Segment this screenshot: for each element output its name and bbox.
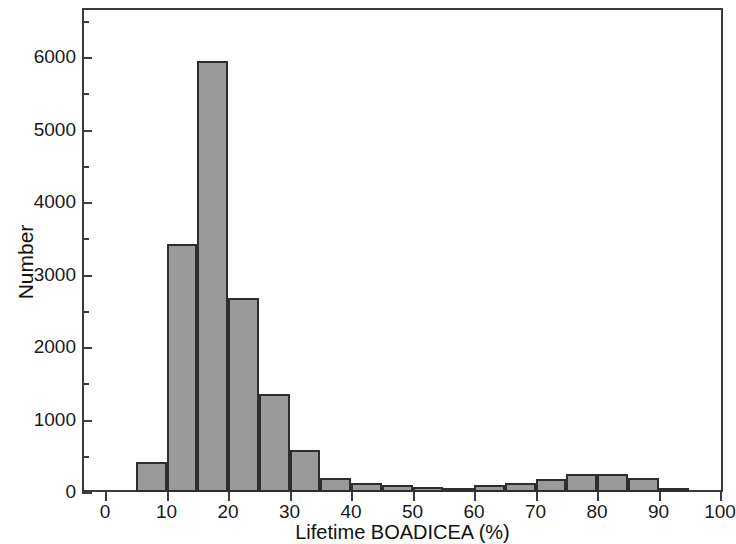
x-axis-tick bbox=[228, 492, 230, 501]
y-axis-tick-label: 1000 bbox=[34, 409, 76, 431]
histogram-bar bbox=[536, 479, 567, 492]
y-axis-tick bbox=[82, 57, 92, 59]
y-axis-minor-tick bbox=[82, 383, 89, 385]
y-axis-tick-label: 3000 bbox=[34, 264, 76, 286]
x-axis-tick-label: 0 bbox=[100, 501, 111, 523]
histogram-bar bbox=[474, 485, 505, 492]
y-axis-title: Number bbox=[14, 192, 38, 332]
y-axis-minor-tick bbox=[82, 166, 89, 168]
x-axis-tick bbox=[105, 492, 107, 501]
histogram-bar bbox=[351, 483, 382, 492]
histogram-bar bbox=[320, 478, 351, 493]
x-axis-tick bbox=[413, 492, 415, 501]
x-axis-tick-label: 70 bbox=[525, 501, 546, 523]
x-axis-tick-label: 100 bbox=[704, 501, 736, 523]
y-axis-minor-tick bbox=[82, 456, 89, 458]
x-axis-tick bbox=[536, 492, 538, 501]
histogram-bar bbox=[136, 462, 167, 492]
y-axis-tick-label: 2000 bbox=[34, 336, 76, 358]
histogram-bar bbox=[505, 483, 536, 492]
x-axis-tick bbox=[290, 492, 292, 501]
x-axis-tick bbox=[659, 492, 661, 501]
histogram-bar bbox=[413, 487, 444, 492]
histogram-bar bbox=[382, 485, 413, 492]
y-axis-minor-tick bbox=[82, 311, 89, 313]
y-axis-minor-tick bbox=[82, 238, 89, 240]
x-axis-tick-label: 40 bbox=[340, 501, 361, 523]
y-axis-tick-label: 5000 bbox=[34, 119, 76, 141]
histogram-bar bbox=[259, 394, 290, 492]
y-axis-tick bbox=[82, 492, 92, 494]
x-axis-tick-label: 50 bbox=[402, 501, 423, 523]
x-axis-tick bbox=[720, 492, 722, 501]
y-axis-tick-labels: 0100020003000400050006000 bbox=[0, 0, 76, 540]
histogram-bars bbox=[82, 8, 723, 492]
x-axis-tick-label: 10 bbox=[156, 501, 177, 523]
x-axis-tick-label: 20 bbox=[217, 501, 238, 523]
histogram-bar bbox=[628, 478, 659, 493]
y-axis-tick bbox=[82, 202, 92, 204]
y-axis-tick-label: 4000 bbox=[34, 191, 76, 213]
x-axis-title: Lifetime BOADICEA (%) bbox=[82, 521, 723, 544]
x-axis-tick-label: 30 bbox=[279, 501, 300, 523]
x-axis-tick-label: 80 bbox=[586, 501, 607, 523]
y-axis-tick bbox=[82, 420, 92, 422]
y-axis-tick-label: 0 bbox=[65, 481, 76, 503]
x-axis-tick bbox=[597, 492, 599, 501]
histogram-bar bbox=[290, 450, 321, 492]
x-axis-tick-label: 90 bbox=[648, 501, 669, 523]
x-axis-tick bbox=[167, 492, 169, 501]
y-axis-tick bbox=[82, 275, 92, 277]
histogram-bar bbox=[659, 488, 690, 492]
histogram-bar bbox=[197, 61, 228, 492]
x-axis-tick bbox=[351, 492, 353, 501]
y-axis-tick bbox=[82, 130, 92, 132]
y-axis-tick bbox=[82, 347, 92, 349]
y-axis-minor-tick bbox=[82, 93, 89, 95]
x-axis-tick bbox=[474, 492, 476, 501]
x-axis-tick-label: 60 bbox=[463, 501, 484, 523]
histogram-bar bbox=[566, 474, 597, 492]
histogram-bar bbox=[228, 298, 259, 492]
histogram-bar bbox=[167, 244, 198, 492]
histogram-bar bbox=[443, 488, 474, 492]
y-axis-tick-label: 6000 bbox=[34, 46, 76, 68]
histogram-bar bbox=[597, 474, 628, 492]
y-axis-minor-tick bbox=[82, 21, 89, 23]
